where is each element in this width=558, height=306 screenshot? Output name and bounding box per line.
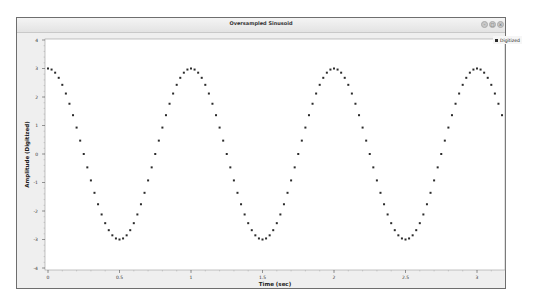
- data-point: [390, 222, 392, 224]
- data-point: [430, 192, 432, 194]
- data-point: [111, 234, 113, 236]
- data-point: [147, 179, 149, 181]
- data-point: [319, 84, 321, 86]
- data-point: [276, 222, 278, 224]
- data-point: [101, 213, 103, 215]
- y-tick-label: -3: [34, 237, 39, 242]
- data-point: [233, 179, 235, 181]
- data-point: [458, 93, 460, 95]
- data-point: [47, 68, 49, 70]
- x-axis-label: Time (sec): [259, 281, 292, 287]
- data-point: [211, 103, 213, 105]
- data-point: [158, 140, 160, 142]
- data-point: [169, 103, 171, 105]
- data-point: [140, 203, 142, 205]
- x-tick-label: 1.5: [259, 275, 266, 280]
- data-point: [333, 68, 335, 70]
- data-point: [487, 77, 489, 79]
- data-point: [497, 103, 499, 105]
- data-point: [347, 84, 349, 86]
- x-tick-label: 0.5: [116, 275, 123, 280]
- data-point: [379, 192, 381, 194]
- y-tick-label: 3: [35, 66, 38, 71]
- data-point: [322, 77, 324, 79]
- data-point: [344, 77, 346, 79]
- data-point: [394, 229, 396, 231]
- data-point: [480, 69, 482, 71]
- x-tick-label: 0: [47, 275, 50, 280]
- data-point: [208, 93, 210, 95]
- y-tick-label: 2: [35, 95, 38, 100]
- data-point: [326, 72, 328, 74]
- data-point: [472, 69, 474, 71]
- data-point: [126, 234, 128, 236]
- data-point: [451, 114, 453, 116]
- data-point: [408, 237, 410, 239]
- data-point: [290, 179, 292, 181]
- legend-label: Digitized: [500, 38, 520, 43]
- data-point: [68, 103, 70, 105]
- legend: Digitized: [493, 36, 522, 44]
- data-point: [297, 153, 299, 155]
- data-point: [279, 213, 281, 215]
- data-point: [183, 72, 185, 74]
- data-point: [329, 69, 331, 71]
- data-point: [483, 72, 485, 74]
- data-point: [229, 166, 231, 168]
- data-point: [244, 213, 246, 215]
- data-point: [251, 229, 253, 231]
- data-point: [415, 229, 417, 231]
- scatter-plot: 43210-1-2-3-400.511.522.53Time (sec)Ampl…: [0, 0, 558, 306]
- data-point: [236, 192, 238, 194]
- data-point: [440, 153, 442, 155]
- data-point: [104, 222, 106, 224]
- data-point: [176, 84, 178, 86]
- data-point: [447, 127, 449, 129]
- y-axis-label: Amplitude (Digitized): [24, 121, 31, 188]
- data-point: [90, 179, 92, 181]
- data-point: [387, 213, 389, 215]
- data-point: [172, 93, 174, 95]
- data-point: [494, 93, 496, 95]
- x-tick-label: 2.5: [402, 275, 409, 280]
- data-point: [119, 239, 121, 241]
- data-point: [179, 77, 181, 79]
- data-point: [358, 114, 360, 116]
- data-point: [272, 229, 274, 231]
- y-tick-label: 4: [35, 38, 38, 43]
- data-point: [136, 213, 138, 215]
- data-point: [269, 234, 271, 236]
- data-point: [455, 103, 457, 105]
- data-point: [465, 77, 467, 79]
- data-point: [476, 68, 478, 70]
- data-point: [369, 153, 371, 155]
- data-point: [433, 179, 435, 181]
- data-point: [490, 84, 492, 86]
- y-tick-label: -4: [34, 266, 39, 271]
- x-tick-label: 2: [333, 275, 336, 280]
- data-point: [93, 192, 95, 194]
- data-point: [351, 93, 353, 95]
- data-point: [194, 69, 196, 71]
- x-tick-label: 1: [190, 275, 193, 280]
- legend-swatch-icon: [495, 39, 498, 42]
- y-tick-label: 1: [35, 123, 38, 128]
- data-point: [219, 127, 221, 129]
- data-point: [201, 77, 203, 79]
- data-point: [215, 114, 217, 116]
- data-point: [161, 127, 163, 129]
- data-point: [76, 127, 78, 129]
- data-point: [262, 239, 264, 241]
- data-point: [108, 229, 110, 231]
- data-point: [287, 192, 289, 194]
- data-point: [144, 192, 146, 194]
- data-point: [197, 72, 199, 74]
- data-point: [312, 103, 314, 105]
- data-point: [422, 213, 424, 215]
- data-point: [51, 69, 53, 71]
- data-point: [115, 237, 117, 239]
- data-point: [283, 203, 285, 205]
- data-point: [83, 153, 85, 155]
- data-point: [383, 203, 385, 205]
- data-point: [340, 72, 342, 74]
